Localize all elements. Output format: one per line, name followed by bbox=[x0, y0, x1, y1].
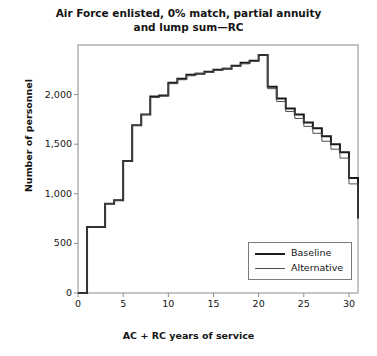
legend-swatch-alternative bbox=[255, 268, 285, 269]
chart-legend: Baseline Alternative bbox=[248, 242, 352, 280]
chart-figure: Air Force enlisted, 0% match, partial an… bbox=[0, 0, 377, 356]
legend-swatch-baseline bbox=[255, 253, 285, 255]
plot-area bbox=[0, 0, 377, 356]
legend-label-baseline: Baseline bbox=[291, 247, 331, 258]
legend-label-alternative: Alternative bbox=[291, 262, 343, 273]
